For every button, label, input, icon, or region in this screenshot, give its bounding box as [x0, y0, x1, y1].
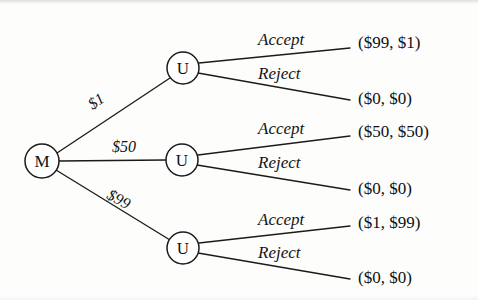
game-tree-diagram: M U U U $1 $50 $99 Accept Reject Accept … — [0, 0, 478, 300]
offer-label-1: $1 — [85, 89, 108, 112]
reject-label-offer-1: Reject — [257, 64, 302, 83]
payoff-accept-offer-1: ($99, $1) — [358, 33, 420, 52]
accept-edge-offer-99 — [199, 226, 350, 243]
payoff-accept-offer-50: ($50, $50) — [358, 122, 429, 141]
payoff-accept-offer-99: ($1, $99) — [358, 213, 420, 232]
responder-node-label: U — [176, 151, 188, 170]
reject-label-offer-99: Reject — [257, 243, 302, 262]
offer-edge-50 — [59, 160, 166, 161]
payoff-reject-offer-99: ($0, $0) — [358, 268, 412, 287]
responder-node-offer-50[interactable]: U — [166, 144, 198, 176]
offer-label-99: $99 — [104, 186, 133, 213]
responder-node-label: U — [177, 59, 189, 78]
offer-label-50: $50 — [112, 138, 136, 155]
accept-label-offer-50: Accept — [257, 119, 306, 138]
offer-edges — [56, 78, 170, 240]
payoff-reject-offer-50: ($0, $0) — [358, 179, 412, 198]
accept-edge-offer-1 — [199, 48, 350, 63]
mover-node[interactable]: M — [25, 144, 59, 178]
responder-node-label: U — [177, 239, 189, 258]
reject-label-offer-50: Reject — [257, 153, 302, 172]
payoff-reject-offer-1: ($0, $0) — [358, 89, 412, 108]
game-tree-canvas: M U U U $1 $50 $99 Accept Reject Accept … — [0, 0, 478, 300]
responder-node-offer-1[interactable]: U — [167, 52, 199, 84]
mover-node-label: M — [34, 152, 49, 171]
responder-node-offer-99[interactable]: U — [167, 232, 199, 264]
accept-label-offer-99: Accept — [257, 210, 306, 229]
accept-label-offer-1: Accept — [257, 30, 306, 49]
